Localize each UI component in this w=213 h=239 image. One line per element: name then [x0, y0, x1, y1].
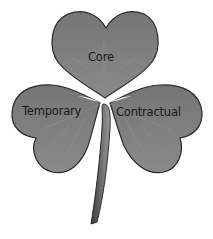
core-label: Core: [88, 50, 114, 64]
temporary-label: Temporary: [22, 104, 81, 118]
contractual-label: Contractual: [116, 105, 181, 119]
shamrock-diagram: [0, 0, 213, 239]
